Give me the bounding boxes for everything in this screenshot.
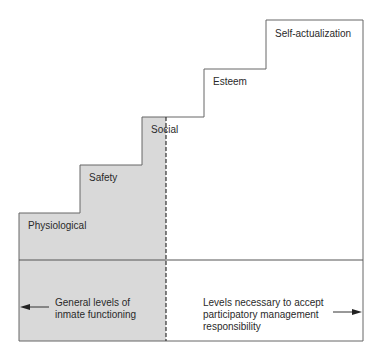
- step-label-social: Social: [151, 124, 178, 136]
- right-region-caption-line3: responsibility: [203, 321, 261, 333]
- right-region-caption-line2: participatory management: [203, 309, 319, 321]
- step-label-safety: Safety: [89, 172, 117, 184]
- left-region-caption-line1: General levels of: [55, 297, 130, 309]
- step-label-physiological: Physiological: [28, 220, 86, 232]
- step-label-self-actualization: Self-actualization: [275, 28, 351, 40]
- right-region-caption-line1: Levels necessary to accept: [203, 297, 324, 309]
- left-region-caption-line2: inmate functioning: [55, 309, 136, 321]
- right-arrow-icon: [333, 309, 362, 315]
- step-label-esteem: Esteem: [213, 76, 247, 88]
